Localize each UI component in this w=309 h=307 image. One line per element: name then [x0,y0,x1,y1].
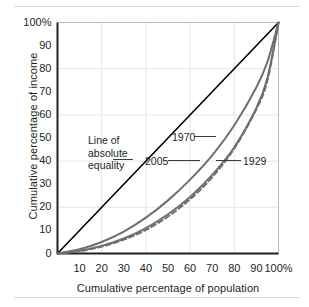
x-tick-label: 10 [73,262,85,274]
x-tick-label: 90 [250,262,262,274]
x-tick-label: 30 [118,262,130,274]
x-tick-label: 40 [140,262,152,274]
x-tick-label: 80 [228,262,240,274]
y-tick-label: 0 [8,247,52,259]
annotation-1970: 1970 [172,131,195,144]
x-tick-label: 100% [264,262,292,274]
x-tick-label: 20 [96,262,108,274]
x-tick-label: 70 [206,262,218,274]
y-tick-label: 100% [8,16,52,28]
x-tick-label: 50 [162,262,174,274]
annotation-2005: 2005 [145,155,168,168]
x-axis-title: Cumulative percentage of population [57,282,279,294]
lorenz-curve-figure: 0102030405060708090100% 1020304050607080… [0,0,309,307]
x-tick-label: 60 [184,262,196,274]
y-axis-title: Cumulative percentage of income [27,41,39,231]
equality-label-line-2: absolute [88,147,128,160]
equality-label-line-3: equality [88,159,128,172]
equality-label-line-1: Line of [88,134,128,147]
annotation-1929: 1929 [243,155,266,168]
annotation-line-of-absolute-equality: Line of absolute equality [88,134,128,172]
